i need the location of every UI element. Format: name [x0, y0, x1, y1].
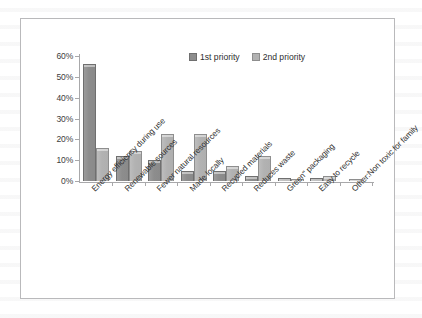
x-axis-tick [275, 182, 276, 186]
x-axis-tick [340, 182, 341, 186]
x-axis-tick [242, 182, 243, 186]
bar-1st-priority [310, 178, 323, 181]
bar-highlight [246, 177, 257, 179]
y-axis-tick-label: 0% [37, 176, 73, 186]
bar-1st-priority [245, 176, 258, 181]
y-axis-tick [75, 139, 80, 140]
y-axis-tick-label: 30% [37, 114, 73, 124]
x-axis-labels: Energy efficiency during useRenewable so… [21, 187, 396, 299]
y-axis-tick-label: 60% [37, 51, 73, 61]
y-axis-tick [75, 119, 80, 120]
y-axis-tick [75, 98, 80, 99]
y-axis-tick [75, 181, 80, 182]
bar-highlight [279, 179, 290, 181]
chart-frame: 60%50%40%30%20%10%0% 1st priority 2nd pr… [20, 18, 395, 299]
bar-highlight [97, 149, 108, 151]
y-axis-tick-label: 10% [37, 155, 73, 165]
y-axis-tick [75, 77, 80, 78]
y-axis-tick-label: 50% [37, 72, 73, 82]
x-axis-tick [307, 182, 308, 186]
y-axis-tick-label: 20% [37, 134, 73, 144]
y-axis-tick [75, 56, 80, 57]
x-axis-tick [145, 182, 146, 186]
x-axis-tick [210, 182, 211, 186]
bar-highlight [84, 65, 95, 67]
bar-highlight [182, 172, 193, 174]
y-axis-tick-label: 40% [37, 93, 73, 103]
bar-highlight [311, 179, 322, 181]
x-axis-tick [372, 182, 373, 186]
bar-group [80, 56, 112, 181]
bar-1st-priority [83, 64, 96, 181]
y-axis-tick [75, 160, 80, 161]
x-axis-tick [112, 182, 113, 186]
x-axis-tick [177, 182, 178, 186]
bar-1st-priority [278, 178, 291, 181]
